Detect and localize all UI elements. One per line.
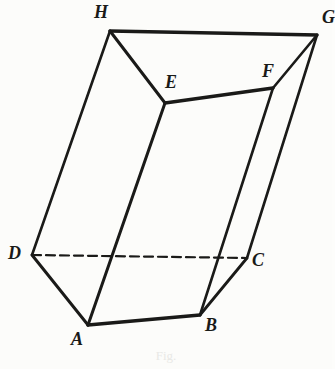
edge-EF (165, 88, 273, 103)
edge-EA (88, 103, 165, 325)
edge-DA (32, 255, 88, 325)
edge-HD (32, 31, 110, 255)
figure-caption: Fig. (0, 348, 332, 364)
edge-HE (110, 31, 165, 103)
vertex-label-H: H (94, 3, 108, 21)
vertex-label-A: A (71, 330, 83, 348)
edge-BC (200, 258, 247, 315)
edge-HG (110, 31, 317, 35)
vertex-label-E: E (165, 73, 177, 91)
vertex-label-D: D (8, 244, 21, 262)
edge-DC (32, 255, 247, 258)
edge-GC (247, 35, 317, 258)
vertex-label-B: B (205, 316, 217, 334)
vertex-label-G: G (322, 8, 335, 26)
edge-FG (273, 35, 317, 88)
edge-FB (200, 88, 273, 315)
edge-AB (88, 315, 200, 325)
vertex-label-C: C (252, 251, 264, 269)
vertex-label-F: F (262, 62, 274, 80)
